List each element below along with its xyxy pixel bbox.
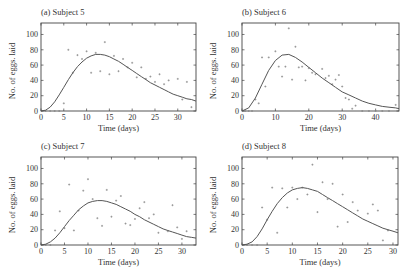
data-point	[328, 75, 330, 77]
x-tick-label: 20	[305, 113, 313, 122]
x-tick-label: 15	[105, 113, 113, 122]
data-point	[186, 230, 188, 232]
data-point	[95, 52, 97, 54]
model-fit-curve	[242, 188, 398, 245]
data-point	[58, 110, 60, 112]
x-tick-label: 0	[240, 113, 244, 122]
data-point	[368, 110, 370, 112]
y-axis-label: No. of eggs. laid	[7, 42, 17, 99]
x-tick-label: 5	[62, 113, 66, 122]
data-point	[361, 110, 363, 112]
data-point	[143, 201, 145, 203]
y-tick-label: 20	[30, 225, 38, 234]
data-point	[258, 102, 260, 104]
data-point	[92, 198, 94, 200]
data-point	[140, 66, 142, 68]
y-tick-label: 20	[30, 91, 38, 100]
data-point	[90, 72, 92, 74]
y-tick-label: 100	[227, 164, 239, 173]
x-tick-label: 15	[313, 247, 321, 256]
data-point	[286, 207, 288, 209]
y-tick-label: 60	[30, 61, 38, 70]
panel-c: (c) Subject 7051015202530020406080100Tim…	[7, 141, 196, 267]
data-point	[377, 210, 379, 212]
y-tick-label: 20	[231, 91, 239, 100]
y-tick-label: 20	[231, 225, 239, 234]
x-tick-label: 5	[62, 247, 66, 256]
data-point	[153, 213, 155, 215]
panel-b: (b) Subject 6010203040020406080100Time (…	[208, 7, 399, 133]
data-point	[388, 110, 390, 112]
data-point	[341, 86, 343, 88]
x-tick-label: 40	[372, 113, 380, 122]
data-point	[337, 226, 339, 228]
data-point	[261, 207, 263, 209]
panel-title: (a) Subject 5	[41, 7, 84, 17]
data-point	[87, 178, 89, 180]
x-axis-label: Time (days)	[300, 123, 341, 133]
y-tick-label: 80	[231, 46, 239, 55]
data-point	[154, 81, 156, 83]
x-tick-label: 20	[339, 247, 347, 256]
data-point	[115, 200, 117, 202]
data-point	[311, 164, 313, 166]
model-fit-curve	[242, 54, 399, 111]
data-point	[355, 105, 357, 107]
data-point	[76, 54, 78, 56]
data-point	[110, 216, 112, 218]
data-point	[304, 79, 306, 81]
x-tick-label: 25	[151, 113, 159, 122]
data-point	[291, 187, 293, 189]
data-point	[345, 97, 347, 99]
y-tick-label: 80	[231, 180, 239, 189]
data-point	[49, 110, 51, 112]
data-point	[291, 79, 293, 81]
x-tick-label: 10	[84, 247, 92, 256]
panel-title: (b) Subject 6	[242, 7, 286, 17]
data-point	[129, 224, 131, 226]
data-point	[332, 183, 334, 185]
y-tick-label: 60	[231, 61, 239, 70]
data-point	[281, 187, 283, 189]
data-point	[54, 229, 56, 231]
x-tick-label: 5	[265, 247, 269, 256]
x-tick-label: 20	[131, 247, 139, 256]
data-point	[278, 66, 280, 68]
x-tick-label: 10	[83, 113, 91, 122]
data-point	[251, 110, 253, 112]
data-point	[118, 70, 120, 72]
data-point	[248, 110, 250, 112]
data-point	[82, 190, 84, 192]
y-tick-label: 60	[231, 195, 239, 204]
y-tick-label: 0	[34, 107, 38, 116]
model-fit-curve	[41, 201, 196, 245]
y-tick-label: 40	[30, 76, 38, 85]
y-tick-label: 60	[30, 195, 38, 204]
data-point	[157, 232, 159, 234]
data-point	[168, 79, 170, 81]
y-tick-label: 40	[231, 210, 239, 219]
x-tick-label: 25	[364, 247, 372, 256]
data-point	[288, 27, 290, 29]
data-point	[264, 86, 266, 88]
data-point	[108, 73, 110, 75]
data-point	[351, 108, 353, 110]
data-point	[122, 58, 124, 60]
panel-title: (d) Subject 8	[242, 141, 286, 151]
data-point	[357, 210, 359, 212]
plot-frame	[242, 23, 399, 111]
data-point	[68, 184, 70, 186]
data-point	[296, 198, 298, 200]
data-point	[101, 225, 103, 227]
x-tick-label: 15	[107, 247, 115, 256]
y-tick-label: 100	[26, 164, 38, 173]
data-point	[190, 106, 192, 108]
data-point	[163, 83, 165, 85]
x-axis-label: Time (days)	[98, 257, 139, 267]
data-point	[348, 99, 350, 101]
x-tick-label: 0	[240, 247, 244, 256]
data-point	[294, 46, 296, 48]
data-point	[298, 66, 300, 68]
data-point	[338, 74, 340, 76]
y-axis-label: No. of eggs. laid	[208, 42, 218, 99]
